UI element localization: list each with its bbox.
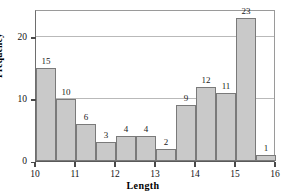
histogram-bar [256, 155, 276, 161]
histogram-chart: Frequency 15106344291211231 01020 101112… [0, 0, 286, 196]
bar-value-label: 12 [202, 76, 211, 85]
bars-layer: 15106344291211231 [36, 11, 274, 161]
plot-area: 15106344291211231 [35, 10, 275, 162]
x-tick-label: 10 [25, 170, 45, 180]
bar-value-label: 15 [42, 57, 51, 66]
histogram-bar [116, 136, 136, 161]
x-tick-mark-16 [274, 162, 275, 167]
x-tick-label: 14 [185, 170, 205, 180]
x-tick-label: 15 [225, 170, 245, 180]
histogram-bar [236, 18, 256, 161]
y-tick-label: 20 [5, 33, 27, 43]
y-tick-mark-10 [31, 99, 36, 100]
bar-value-label: 9 [184, 94, 189, 103]
x-tick-mark-10 [34, 162, 35, 167]
histogram-bar [36, 68, 56, 161]
x-tick-mark-15 [234, 162, 235, 167]
histogram-bar [176, 105, 196, 161]
histogram-bar [196, 87, 216, 161]
y-tick-label: 0 [5, 157, 27, 167]
bar-value-label: 1 [264, 144, 269, 153]
x-tick-label: 12 [105, 170, 125, 180]
y-axis-title: Frequency [0, 33, 4, 78]
x-tick-mark-13 [154, 162, 155, 167]
y-tick-label: 10 [5, 95, 27, 105]
bar-value-label: 2 [164, 138, 169, 147]
histogram-bar [96, 142, 116, 161]
bar-value-label: 3 [104, 131, 109, 140]
histogram-bar [136, 136, 156, 161]
x-tick-label: 13 [145, 170, 165, 180]
x-tick-mark-12 [114, 162, 115, 167]
y-tick-mark-20 [31, 37, 36, 38]
bar-value-label: 23 [242, 7, 251, 16]
bar-value-label: 10 [62, 88, 71, 97]
histogram-bar [156, 149, 176, 161]
bar-value-label: 4 [124, 125, 129, 134]
histogram-bar [56, 99, 76, 161]
bar-value-label: 11 [222, 82, 231, 91]
x-tick-label: 11 [65, 170, 85, 180]
x-tick-mark-11 [74, 162, 75, 167]
histogram-bar [216, 93, 236, 161]
x-tick-mark-14 [194, 162, 195, 167]
x-axis-title: Length [0, 180, 286, 191]
bar-value-label: 6 [84, 113, 89, 122]
bar-value-label: 4 [144, 125, 149, 134]
histogram-bar [76, 124, 96, 161]
x-tick-label: 16 [265, 170, 285, 180]
